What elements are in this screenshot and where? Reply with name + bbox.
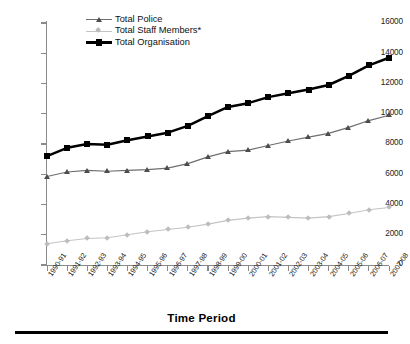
data-point [306, 87, 312, 93]
data-point [44, 153, 50, 159]
data-point [104, 142, 110, 148]
data-point [386, 55, 392, 61]
data-point [365, 118, 371, 123]
data-point [185, 123, 191, 129]
data-point [265, 94, 271, 100]
data-point [84, 141, 90, 147]
x-axis-title: Time Period [0, 311, 403, 324]
legend-swatch-total-staff-members [86, 26, 112, 37]
data-point [225, 104, 231, 110]
legend-item-total-police: Total Police [86, 14, 201, 25]
legend-swatch-total-police [86, 14, 112, 25]
data-point [326, 82, 332, 88]
data-point [124, 137, 130, 143]
chart-legend: Total Police Total Staff Members* Total … [86, 14, 201, 48]
data-point [245, 100, 251, 106]
data-point [124, 168, 130, 173]
series-line [47, 115, 389, 176]
data-point [345, 125, 351, 130]
series-line [47, 58, 389, 156]
data-point [64, 145, 70, 151]
data-point [285, 138, 291, 143]
legend-item-total-organisation: Total Organisation [86, 37, 201, 48]
bottom-rule [15, 331, 388, 334]
data-point [225, 149, 231, 154]
data-point [325, 131, 331, 136]
diamond-marker-icon [95, 27, 101, 33]
square-marker-icon [96, 39, 102, 45]
data-point [144, 167, 150, 172]
data-point [245, 147, 251, 152]
series-line [47, 208, 389, 244]
data-point [164, 165, 170, 170]
data-point [165, 130, 171, 136]
triangle-marker-icon [96, 17, 102, 22]
legend-swatch-total-organisation [86, 37, 112, 48]
data-point [104, 168, 110, 173]
data-point [285, 90, 291, 96]
legend-label-total-staff-members: Total Staff Members* [115, 25, 201, 36]
data-point [64, 169, 70, 174]
legend-item-total-staff-members: Total Staff Members* [86, 25, 201, 36]
data-point [386, 112, 392, 117]
data-point [305, 134, 311, 139]
data-point [265, 143, 271, 148]
legend-label-total-police: Total Police [115, 14, 163, 25]
data-point [346, 73, 352, 79]
data-point [184, 161, 190, 166]
legend-label-total-organisation: Total Organisation [115, 37, 190, 48]
data-point [205, 113, 211, 119]
data-point [84, 168, 90, 173]
data-point [366, 62, 372, 68]
data-point [145, 133, 151, 139]
data-point [44, 174, 50, 179]
data-point [205, 154, 211, 159]
